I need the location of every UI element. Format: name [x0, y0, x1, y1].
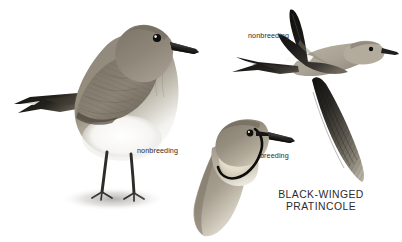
species-name: BLACK-WINGED PRATINCOLE — [262, 189, 380, 214]
label-standing-nonbreeding: nonbreeding — [137, 147, 178, 154]
standing-bird-wing — [76, 54, 158, 122]
head-portrait-breast — [193, 145, 248, 236]
standing-bird-eye — [153, 34, 161, 42]
standing-bird-body — [75, 33, 179, 157]
flying-bird-head — [344, 41, 385, 64]
breast-streaks — [142, 60, 165, 97]
flying-bird-body — [292, 43, 380, 76]
head-portrait-throat-ring — [218, 129, 262, 178]
head-portrait-eye — [247, 130, 254, 137]
standing-bird-figure — [14, 25, 199, 211]
head-portrait-throat — [219, 135, 257, 178]
flying-bird-eye — [369, 47, 373, 51]
illustration-plate: nonbreeding nonbreeding breeding BLACK-W… — [0, 0, 402, 242]
standing-bird-tail — [14, 93, 84, 113]
flying-bird-wing-flash — [285, 55, 314, 63]
standing-bird-bill — [170, 42, 199, 54]
flying-bird-tail — [232, 57, 299, 74]
label-head-breeding: breeding — [260, 152, 289, 159]
label-flight-nonbreeding: nonbreeding — [248, 32, 289, 39]
head-portrait-eye-line — [256, 131, 272, 136]
head-portrait-figure — [193, 119, 295, 236]
flying-bird-bill — [381, 48, 399, 55]
flying-bird-lower-wing — [312, 77, 364, 182]
standing-bird-head — [115, 25, 173, 82]
head-portrait-bill — [268, 132, 295, 143]
flying-bird-upper-wing — [278, 10, 348, 74]
standing-bird-legs — [92, 152, 144, 201]
head-portrait-neck — [211, 144, 258, 186]
ground-shadow — [60, 187, 166, 211]
